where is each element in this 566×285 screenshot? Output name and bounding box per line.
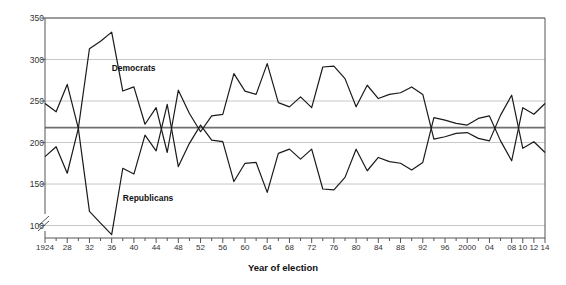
- chart-container: House of Representatives Year of electio…: [0, 0, 566, 285]
- series-label-democrats: Democrats: [112, 63, 156, 73]
- plot-area: [0, 0, 566, 285]
- series-label-republicans: Republicans: [123, 193, 174, 203]
